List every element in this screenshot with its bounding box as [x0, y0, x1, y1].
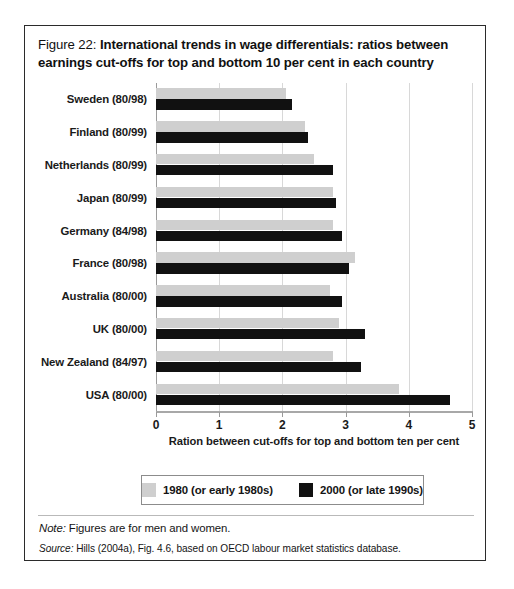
chart-row: UK (80/00)	[25, 313, 487, 346]
bar-group	[156, 280, 472, 313]
bar-1980	[156, 220, 333, 231]
figure-note: Note: Figures are for men and women.	[39, 522, 230, 534]
chart-row: Finland (80/99)	[25, 116, 487, 149]
figure-note-label: Note:	[39, 522, 66, 534]
category-label: Finland (80/99)	[25, 126, 147, 138]
x-tick-3	[346, 412, 347, 417]
figure-source-text: Hills (2004a), Fig. 4.6, based on OECD l…	[73, 543, 400, 554]
figure-source-label: Source:	[39, 543, 73, 554]
x-tick-label-4: 4	[394, 418, 424, 432]
chart-row: USA (80/00)	[25, 378, 487, 411]
x-axis-title: Ration between cut-offs for top and bott…	[156, 435, 472, 447]
bar-2000	[156, 132, 308, 143]
bar-1980	[156, 252, 355, 263]
bar-group	[156, 313, 472, 346]
bar-2000	[156, 362, 361, 373]
figure-title: Figure 22: International trends in wage …	[38, 36, 474, 71]
figure-title-lead: Figure 22:	[38, 37, 100, 52]
bar-1980	[156, 88, 286, 99]
bar-1980	[156, 285, 330, 296]
bar-2000	[156, 395, 450, 406]
chart-row: Netherlands (80/99)	[25, 149, 487, 182]
x-tick-label-5: 5	[457, 418, 487, 432]
legend-label: 1980 (or early 1980s)	[163, 484, 273, 496]
chart-row: Sweden (80/98)	[25, 83, 487, 116]
footer-divider	[38, 515, 474, 516]
x-tick-5	[472, 412, 473, 417]
figure-note-text: Figures are for men and women.	[66, 522, 231, 534]
bar-group	[156, 345, 472, 378]
legend-swatch-1980	[142, 483, 156, 497]
category-label: Netherlands (80/99)	[25, 159, 147, 171]
category-label: Germany (84/98)	[25, 225, 147, 237]
category-label: New Zealand (84/97)	[25, 356, 147, 368]
bar-group	[156, 181, 472, 214]
x-axis-ticks	[156, 412, 472, 417]
chart-bar-rows: Sweden (80/98)Finland (80/99)Netherlands…	[25, 83, 487, 411]
bar-2000	[156, 231, 342, 242]
legend-label: 2000 (or late 1990s)	[320, 484, 423, 496]
bar-group	[156, 378, 472, 411]
bar-group	[156, 149, 472, 182]
bar-2000	[156, 296, 342, 307]
x-tick-4	[409, 412, 410, 417]
bar-1980	[156, 187, 333, 198]
figure-container: Figure 22: International trends in wage …	[24, 25, 486, 561]
chart-row: Germany (84/98)	[25, 214, 487, 247]
x-tick-label-0: 0	[141, 418, 171, 432]
bar-group	[156, 83, 472, 116]
bar-1980	[156, 154, 314, 165]
chart-plot-area: Sweden (80/98)Finland (80/99)Netherlands…	[25, 83, 487, 438]
bar-group	[156, 247, 472, 280]
category-label: Sweden (80/98)	[25, 93, 147, 105]
chart-legend: 1980 (or early 1980s)2000 (or late 1990s…	[141, 475, 424, 505]
chart-row: Australia (80/00)	[25, 280, 487, 313]
bar-2000	[156, 198, 336, 209]
category-label: France (80/98)	[25, 257, 147, 269]
bar-1980	[156, 318, 339, 329]
legend-item: 2000 (or late 1990s)	[299, 483, 423, 497]
x-tick-2	[282, 412, 283, 417]
category-label: Japan (80/99)	[25, 192, 147, 204]
legend-item: 1980 (or early 1980s)	[142, 483, 273, 497]
legend-swatch-2000	[299, 483, 313, 497]
bar-2000	[156, 165, 333, 176]
x-tick-label-3: 3	[331, 418, 361, 432]
bar-2000	[156, 263, 349, 274]
chart-row: Japan (80/99)	[25, 181, 487, 214]
chart-row: New Zealand (84/97)	[25, 345, 487, 378]
x-axis-tick-labels: 012345	[156, 418, 472, 434]
category-label: UK (80/00)	[25, 323, 147, 335]
bar-1980	[156, 384, 399, 395]
bar-group	[156, 214, 472, 247]
x-tick-label-2: 2	[267, 418, 297, 432]
figure-source: Source: Hills (2004a), Fig. 4.6, based o…	[39, 543, 401, 554]
bar-1980	[156, 121, 305, 132]
chart-row: France (80/98)	[25, 247, 487, 280]
category-label: Australia (80/00)	[25, 290, 147, 302]
bar-2000	[156, 329, 365, 340]
x-tick-0	[156, 412, 157, 417]
bar-1980	[156, 351, 333, 362]
bar-2000	[156, 99, 292, 110]
x-tick-label-1: 1	[204, 418, 234, 432]
bar-group	[156, 116, 472, 149]
category-label: USA (80/00)	[25, 389, 147, 401]
x-tick-1	[219, 412, 220, 417]
figure-title-text: International trends in wage differentia…	[38, 37, 448, 70]
